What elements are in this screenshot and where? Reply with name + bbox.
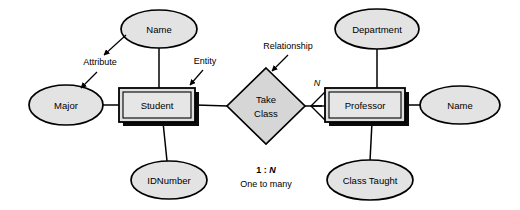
legend-ratio-prefix: 1 :: [256, 165, 269, 175]
entity-student[interactable]: Student: [119, 88, 199, 126]
attribute-professor-class-taught[interactable]: Class Taught: [327, 160, 413, 200]
legend-description: One to many: [240, 179, 292, 189]
connector-professor-classtaught: [370, 122, 372, 161]
attribute-arrow-upper: [104, 35, 126, 55]
attribute-label: Name: [146, 24, 171, 35]
cardinality-label-n: N: [314, 78, 321, 88]
er-diagram-canvas: N Name Major IDNumber Department Name Cl…: [0, 0, 520, 210]
annotation-entity: Entity: [190, 56, 217, 85]
annotation-label: Relationship: [263, 41, 313, 51]
attribute-arrow-lower: [81, 72, 97, 88]
attribute-label: Department: [352, 24, 402, 35]
relationship-arrow: [272, 55, 288, 71]
entity-label: Professor: [345, 100, 386, 111]
entity-arrow: [190, 70, 203, 85]
annotation-label: Entity: [194, 56, 217, 66]
relationship-label-line1: Take: [256, 94, 276, 105]
er-diagram-svg: N Name Major IDNumber Department Name Cl…: [0, 0, 520, 210]
entity-label: Student: [141, 100, 174, 111]
annotation-relationship: Relationship: [263, 41, 313, 71]
legend-ratio: 1 : N: [256, 165, 276, 175]
attribute-student-idnumber[interactable]: IDNumber: [131, 161, 207, 199]
attribute-student-major[interactable]: Major: [29, 85, 103, 125]
attribute-label: Major: [54, 100, 78, 111]
connector-student-takeclass: [196, 105, 228, 106]
attribute-label: IDNumber: [147, 175, 190, 186]
attribute-professor-department[interactable]: Department: [335, 9, 419, 49]
attribute-student-name[interactable]: Name: [121, 10, 197, 48]
annotation-attribute: Attribute: [81, 35, 126, 88]
relationship-diamond: [227, 68, 305, 144]
relationship-take-class[interactable]: Take Class: [227, 68, 305, 144]
attribute-label: Name: [447, 100, 472, 111]
relationship-label-line2: Class: [254, 108, 278, 119]
attribute-professor-name[interactable]: Name: [420, 86, 500, 124]
cardinality-legend: 1 : N One to many: [240, 165, 292, 189]
crows-foot-marker: [311, 92, 325, 120]
attribute-label: Class Taught: [343, 175, 398, 186]
annotation-label: Attribute: [83, 57, 117, 67]
connector-student-idnumber: [163, 122, 167, 161]
entity-professor[interactable]: Professor: [325, 88, 409, 126]
legend-ratio-variable: N: [269, 165, 276, 175]
